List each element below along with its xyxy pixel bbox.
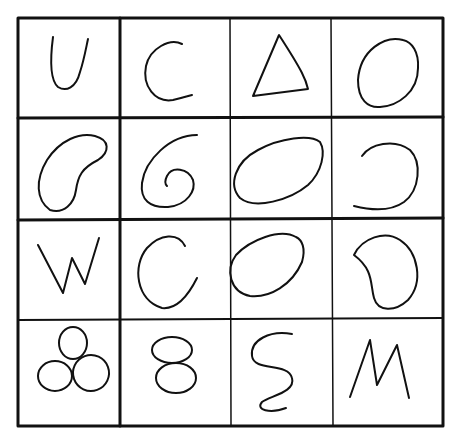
shape-bean xyxy=(354,236,417,309)
grid-line xyxy=(18,318,443,320)
shape-three-circles xyxy=(38,327,114,396)
shape-letter-m xyxy=(350,340,409,398)
grid-line xyxy=(230,18,231,426)
shape-figure-8 xyxy=(152,337,196,393)
shape-spiral-6 xyxy=(142,135,197,207)
shape-letter-u xyxy=(51,37,88,89)
drawing-grid xyxy=(0,0,461,440)
grid-line xyxy=(18,218,443,220)
grid-line xyxy=(331,18,333,426)
shape-letter-w xyxy=(38,238,99,293)
grid-line xyxy=(18,117,443,118)
shape-open-arc xyxy=(354,143,418,209)
shape-tilted-ellipse xyxy=(234,138,322,203)
shape-triangle xyxy=(253,35,308,96)
shape-letter-c xyxy=(145,42,192,100)
shape-epsilon-3 xyxy=(252,333,293,411)
shape-oval xyxy=(230,234,303,296)
shape-oval xyxy=(358,39,418,107)
shape-kidney-bean xyxy=(39,135,107,211)
shape-letter-c xyxy=(138,236,197,308)
